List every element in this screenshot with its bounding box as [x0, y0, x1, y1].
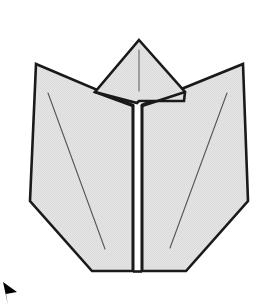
- origami-diagram: [0, 0, 272, 307]
- diagram-canvas: [0, 0, 272, 307]
